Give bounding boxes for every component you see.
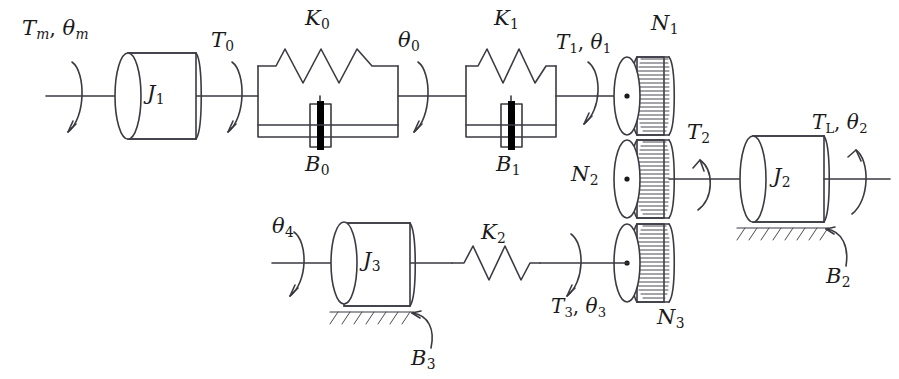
label-torque-3: T3, θ3 — [551, 296, 606, 316]
torque-input-arrow — [68, 62, 82, 132]
label-load-torque: TL, θ2 — [812, 112, 867, 132]
ground-b3 — [330, 311, 432, 348]
mechanical-system-diagram: .ln{stroke:#3a3a42;stroke-width:1.6;fill… — [0, 0, 899, 379]
label-gear-3: N3 — [657, 307, 684, 328]
gear-2 — [614, 140, 753, 218]
label-damper-3: B3 — [411, 348, 435, 369]
gear-1 — [614, 57, 674, 135]
label-torque-0: T0 — [211, 30, 234, 51]
label-damper-1: B1 — [496, 154, 520, 175]
label-theta-0: θ0 — [398, 30, 419, 51]
label-theta-4: θ4 — [272, 216, 293, 237]
label-input-torque: Tm, θm — [22, 18, 88, 39]
label-inertia-2: J2 — [773, 166, 790, 187]
label-torque-1: T1, θ1 — [556, 32, 611, 52]
diagram-canvas: .ln{stroke:#3a3a42;stroke-width:1.6;fill… — [0, 0, 899, 379]
label-gear-1: N1 — [651, 13, 678, 34]
spring-damper-1 — [466, 49, 556, 150]
label-inertia-3: J3 — [363, 250, 380, 271]
label-inertia-1: J1 — [147, 83, 164, 104]
torque-2-arrow — [693, 160, 710, 210]
torque-3-arrow — [567, 234, 581, 296]
label-damper-0: B0 — [305, 154, 329, 175]
theta-4-arrow — [290, 232, 304, 296]
label-spring-2: K2 — [481, 222, 506, 243]
ground-b2 — [737, 227, 847, 266]
label-spring-0: K0 — [305, 8, 330, 29]
torque-0-arrow — [228, 62, 242, 132]
label-torque-2: T2 — [687, 122, 710, 143]
torque-load-arrow — [848, 150, 866, 214]
inertia-2-cylinder — [740, 136, 890, 222]
label-damper-2: B2 — [826, 266, 850, 287]
spring-2 — [452, 246, 540, 280]
spring-damper-0 — [258, 49, 398, 150]
theta-0-arrow — [414, 62, 428, 132]
label-spring-1: K1 — [494, 8, 519, 29]
torque-1-arrow — [584, 62, 598, 124]
label-gear-2: N2 — [571, 164, 598, 185]
